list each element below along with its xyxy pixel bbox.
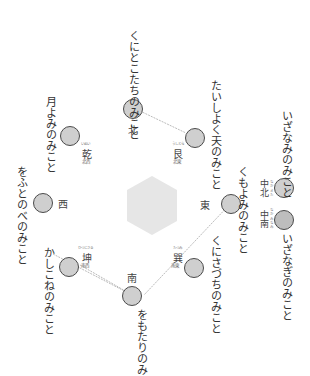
deity-northeast: たいしよく天のみこと (209, 80, 221, 190)
ruby-center-north: なか きた (269, 180, 274, 197)
center-hexagon (127, 176, 177, 235)
node-southwest[interactable] (59, 257, 79, 277)
deity-east: くもよみのみこと (236, 166, 248, 254)
deity-southwest: かしこねのみこと (42, 247, 54, 335)
node-west[interactable] (33, 193, 53, 213)
deity-south: をもたりのみこと (135, 309, 147, 343)
sub-southwest: 南西 (81, 262, 89, 268)
label-east: 東 (200, 197, 210, 212)
sub-northeast: 北東 (173, 158, 181, 164)
deity-northwest: 月よみのみこと (44, 96, 56, 173)
deity-west: をふとのべのみこと (15, 166, 27, 265)
label-south: 南 (127, 270, 137, 285)
deity-center-south: いざなぎのみこと (280, 233, 292, 321)
deity-center-north: いざなみのみこと (280, 110, 292, 198)
sub-northwest: 北西 (82, 158, 90, 164)
node-northeast[interactable] (185, 128, 205, 148)
label-center-north: 中北 (259, 179, 269, 197)
label-west: 西 (58, 196, 68, 211)
node-south[interactable] (122, 286, 142, 306)
ruby-center-south: なか みなみ (269, 208, 274, 229)
node-northwest[interactable] (60, 126, 80, 146)
node-center-south[interactable] (274, 210, 294, 230)
sub-southeast: 南東 (171, 262, 179, 268)
line-north-northeast (140, 111, 186, 133)
label-center-south: 中南 (259, 210, 269, 228)
deity-north: くにとこたちのみこと (127, 30, 139, 100)
node-southeast[interactable] (184, 258, 204, 278)
deity-southeast: くにさづちのみこと (209, 235, 221, 334)
